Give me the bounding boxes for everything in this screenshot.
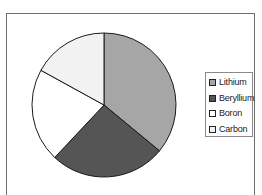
legend-item-lithium: Lithium (209, 75, 247, 89)
legend-swatch-carbon (209, 126, 216, 133)
legend-swatch-lithium (209, 79, 216, 86)
legend: Lithium Beryllium Boron Carbon (205, 72, 253, 137)
legend-item-boron: Boron (209, 106, 242, 120)
legend-swatch-boron (209, 110, 216, 117)
legend-swatch-beryllium (209, 95, 216, 102)
legend-label: Lithium (219, 77, 247, 87)
legend-item-carbon: Carbon (209, 122, 247, 136)
legend-item-beryllium: Beryllium (209, 91, 254, 105)
legend-label: Beryllium (219, 93, 254, 103)
legend-label: Boron (219, 108, 242, 118)
pie-slices (32, 33, 176, 177)
legend-label: Carbon (219, 124, 247, 134)
